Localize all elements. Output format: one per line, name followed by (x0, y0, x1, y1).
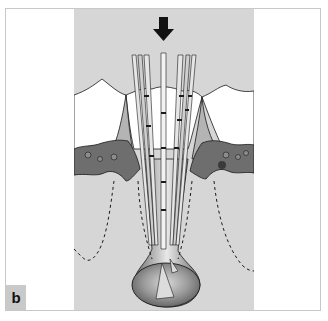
bone-right (190, 141, 254, 179)
root-outline-left-outer (74, 181, 114, 260)
panel-label: b (6, 285, 26, 310)
endodontic-files (132, 53, 196, 249)
figure-frame: b (5, 8, 321, 311)
down-arrow-icon (153, 17, 174, 41)
tooth-illustration (6, 9, 321, 311)
bone-left (74, 140, 140, 181)
root-outline-right-outer (214, 181, 254, 271)
